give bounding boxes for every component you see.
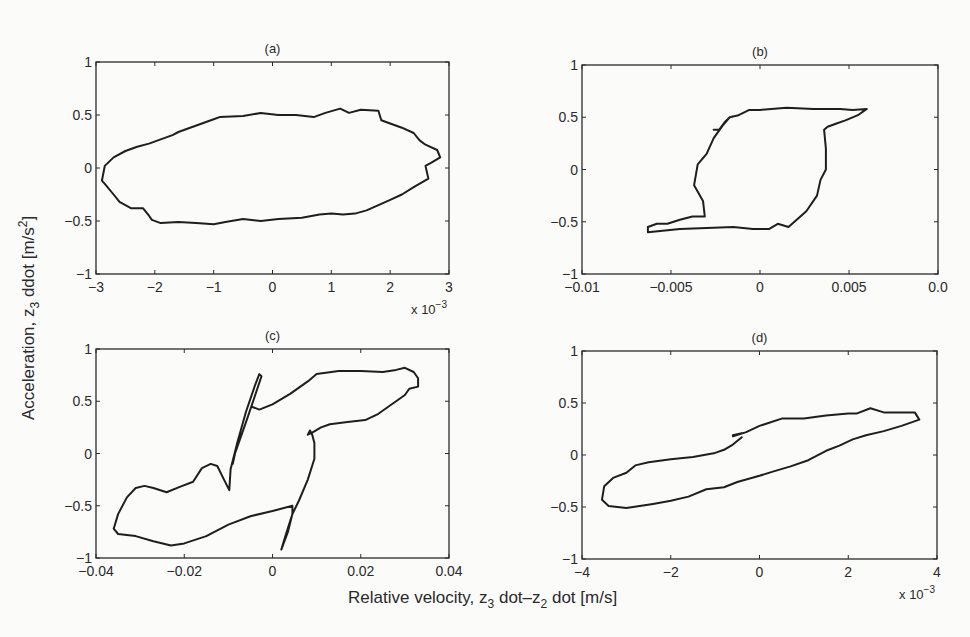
axes-frame xyxy=(582,351,937,559)
axes-frame xyxy=(96,62,449,274)
subplot-a: (a)−3−2−10123−1−0.500.51x 10−3 xyxy=(64,41,453,317)
hysteresis-curve xyxy=(114,368,418,550)
y-axis-label: Acceleration, z3 ddot [m/s2] xyxy=(16,216,42,420)
subplot-title: (b) xyxy=(752,44,768,59)
hysteresis-curve xyxy=(602,408,919,508)
x-tick-label: 0.04 xyxy=(435,563,462,579)
y-tick-label: 1 xyxy=(570,57,578,73)
y-tick-label: 0 xyxy=(84,160,92,176)
y-tick-label: −1 xyxy=(562,551,578,567)
x-tick-label: 2 xyxy=(386,279,394,295)
x-tick-label: 0 xyxy=(756,279,764,295)
x-tick-label: 0 xyxy=(269,279,277,295)
y-tick-label: −1 xyxy=(76,266,92,282)
y-tick-label: 0 xyxy=(84,446,92,462)
x-multiplier-label: x 10−3 xyxy=(899,584,935,602)
y-tick-label: −1 xyxy=(562,266,578,282)
axes-frame xyxy=(582,65,938,274)
x-tick-label: 1 xyxy=(327,279,335,295)
y-tick-label: 1 xyxy=(84,341,92,357)
x-tick-label: −1 xyxy=(206,279,222,295)
x-tick-label: 0.02 xyxy=(347,563,374,579)
x-tick-label: 2 xyxy=(844,564,852,580)
x-axis-label-main: Relative velocity, z xyxy=(348,588,488,607)
y-tick-label: 0.5 xyxy=(559,109,579,125)
y-tick-label: −0.5 xyxy=(64,498,92,514)
y-tick-label: −0.5 xyxy=(550,499,578,515)
x-tick-label: −2 xyxy=(147,279,163,295)
y-tick-label: −0.5 xyxy=(550,214,578,230)
y-tick-label: 0 xyxy=(570,162,578,178)
subplot-b: (b)−0.01−0.00500.0050.0−1−0.500.51 xyxy=(550,44,948,295)
x-tick-label: −0.005 xyxy=(649,279,692,295)
y-tick-label: −1 xyxy=(76,550,92,566)
x-axis-label-mid: dot–z xyxy=(494,588,540,607)
y-tick-label: 1 xyxy=(84,54,92,70)
x-tick-label: 0.0 xyxy=(928,279,948,295)
y-tick-label: 0 xyxy=(570,447,578,463)
x-axis-label-end: dot [m/s] xyxy=(547,588,617,607)
y-tick-label: 0.5 xyxy=(559,395,579,411)
axes-frame xyxy=(96,349,449,558)
x-tick-label: 0.005 xyxy=(831,279,866,295)
y-tick-label: −0.5 xyxy=(64,213,92,229)
figure-canvas: (a)−3−2−10123−1−0.500.51x 10−3 (b)−0.01−… xyxy=(0,0,970,637)
y-tick-label: 0.5 xyxy=(73,393,93,409)
x-tick-label: 0 xyxy=(756,564,764,580)
hysteresis-curve xyxy=(102,109,440,225)
y-tick-label: 0.5 xyxy=(73,107,93,123)
x-tick-label: −2 xyxy=(663,564,679,580)
x-multiplier-label: x 10−3 xyxy=(411,299,447,317)
subplot-c: (c)−0.04−0.0200.020.04−1−0.500.51 xyxy=(64,328,462,579)
hysteresis-curve xyxy=(648,108,867,232)
y-axis-label-end: ] xyxy=(19,216,38,221)
subplot-title: (a) xyxy=(265,41,281,56)
x-tick-label: 0 xyxy=(269,563,277,579)
y-tick-label: 1 xyxy=(570,343,578,359)
x-tick-label: 4 xyxy=(933,564,941,580)
x-tick-label: 3 xyxy=(445,279,453,295)
subplot-d: (d)−4−2024−1−0.500.51x 10−3 xyxy=(550,330,941,602)
y-axis-label-main: Acceleration, z xyxy=(19,309,38,421)
subplot-title: (c) xyxy=(265,328,280,343)
subplot-title: (d) xyxy=(752,330,768,345)
y-axis-label-mid: ddot [m/s xyxy=(19,227,38,302)
x-tick-label: −0.02 xyxy=(167,563,203,579)
x-axis-label: Relative velocity, z3 dot–z2 dot [m/s] xyxy=(348,588,617,611)
